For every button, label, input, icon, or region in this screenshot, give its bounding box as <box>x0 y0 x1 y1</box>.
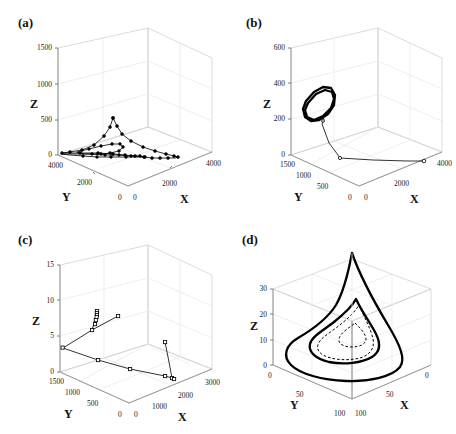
panel-b-data <box>303 87 426 163</box>
panel-c-xlabel: X <box>178 410 187 424</box>
panel-d: (d) <box>228 217 456 434</box>
panel-b-ztick-3: 600 <box>274 43 286 52</box>
panel-b-ztick-0: 0 <box>281 150 285 159</box>
panel-d-ylabel: Y <box>290 398 299 412</box>
panel-a-label: (a) <box>18 15 33 30</box>
panel-c-tick-labels: 15 10 5 0 1500 1000 500 0 0 1000 2000 30… <box>47 260 221 419</box>
panel-b-xtick-1: 2000 <box>394 179 409 188</box>
panel-c-ztick-3: 15 <box>47 260 55 269</box>
panel-c-ztick-1: 5 <box>50 331 54 340</box>
panel-b-ytick-3: 0 <box>348 193 352 202</box>
panel-a-xtick-1: 2000 <box>162 179 177 188</box>
panel-c-ylabel: Y <box>64 407 73 421</box>
panel-d-ztick-3: 30 <box>260 284 268 293</box>
panel-c-ytick-0: 1500 <box>49 377 64 386</box>
panel-b-ztick-1: 200 <box>274 114 286 123</box>
panel-b-zlabel: Z <box>263 97 271 111</box>
panel-b-label: (b) <box>246 15 262 30</box>
panel-c-xtick-0: 0 <box>134 410 138 419</box>
panel-c-ytick-1: 1000 <box>65 388 80 397</box>
panel-b-xtick-0: 0 <box>364 193 368 202</box>
panel-a-ytick-1: 2000 <box>77 178 92 187</box>
panel-a-ytick-2: 0 <box>118 193 122 202</box>
panel-c-xtick-2: 2000 <box>178 391 193 400</box>
panel-b-ytick-0: 1500 <box>280 160 295 169</box>
panel-c-ytick-2: 500 <box>87 399 99 408</box>
panel-b-grid <box>291 28 442 186</box>
panel-b: (b) <box>228 0 456 217</box>
panel-d-ytick-0: 0 <box>268 371 272 380</box>
panel-a-data <box>61 116 180 159</box>
panel-b-tick-labels: 600 400 200 0 1500 1000 500 0 0 2000 400… <box>274 43 453 202</box>
panel-c-ztick-0: 0 <box>50 367 54 376</box>
panel-a-axes <box>55 48 212 186</box>
panel-a-ztick-0: 0 <box>48 150 52 159</box>
panel-a-ylabel: Y <box>62 190 71 204</box>
panel-c: (c) <box>0 217 228 434</box>
panel-a-xlabel: X <box>180 192 189 206</box>
panel-c-label: (c) <box>18 232 32 247</box>
panel-a-xtick-2: 4000 <box>206 159 221 168</box>
panel-c-markers <box>61 310 176 381</box>
panel-c-xtick-1: 1000 <box>152 402 167 411</box>
panel-c-data <box>61 310 176 381</box>
panel-d-ztick-2: 20 <box>260 310 268 319</box>
panel-c-grid <box>60 245 212 403</box>
panel-b-ytick-2: 500 <box>317 182 329 191</box>
panel-d-xtick-1: 50 <box>386 390 394 399</box>
panel-d-ztick-1: 10 <box>260 336 268 345</box>
panel-a-ytick-0: 4000 <box>48 161 63 170</box>
panel-d-label: (d) <box>242 232 258 247</box>
panel-b-axes <box>288 48 442 186</box>
panel-c-axes <box>57 265 212 403</box>
panel-b-ytick-1: 1000 <box>296 171 311 180</box>
panel-d-xtick-0: 100 <box>355 409 367 418</box>
panel-c-xtick-3: 3000 <box>205 378 220 387</box>
panel-d-xtick-2: 0 <box>425 371 429 380</box>
panel-a-tick-labels: 1500 1000 500 0 4000 2000 0 0 2000 4000 <box>37 43 221 202</box>
panel-b-ztick-2: 400 <box>274 79 286 88</box>
panel-a-ztick-1: 500 <box>41 115 53 124</box>
panel-d-zlabel: Z <box>250 319 258 333</box>
panel-b-xtick-2: 4000 <box>437 159 452 168</box>
panel-a-xtick-0: 0 <box>133 193 137 202</box>
panel-c-zlabel: Z <box>32 314 40 328</box>
panel-a-zlabel: Z <box>30 97 38 111</box>
panel-b-xlabel: X <box>410 192 419 206</box>
panel-b-ylabel: Y <box>294 190 303 204</box>
panel-c-ytick-3: 0 <box>118 410 122 419</box>
panel-d-ytick-2: 100 <box>334 409 346 418</box>
panel-a-ztick-2: 1000 <box>37 80 52 89</box>
panel-a-grid <box>58 28 212 186</box>
panel-d-data <box>286 253 402 381</box>
panel-d-xlabel: X <box>400 398 409 412</box>
panel-d-ztick-0: 0 <box>263 361 267 370</box>
panel-a-ztick-3: 1500 <box>37 43 52 52</box>
panel-c-ztick-2: 10 <box>47 296 55 305</box>
panel-a: (a) <box>0 0 228 217</box>
figure-panel-grid: (a) <box>0 0 456 434</box>
